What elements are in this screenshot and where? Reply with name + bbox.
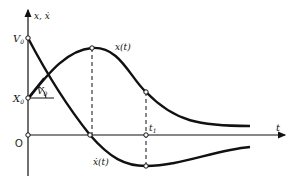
origin-label: O xyxy=(15,138,23,149)
x-curve-label: x(t) xyxy=(115,42,131,52)
x0-point xyxy=(26,96,30,100)
v0-label: V0 xyxy=(13,33,24,45)
angle-label: V0 xyxy=(37,86,48,97)
origin-point xyxy=(26,133,30,137)
t1-xdot-point xyxy=(144,164,148,168)
xdot-curve xyxy=(28,38,250,166)
t1-label: t1 xyxy=(149,123,156,134)
y-axis-label: x, ẋ xyxy=(34,11,50,21)
t1-axis-point xyxy=(144,133,148,137)
peak-point xyxy=(90,46,94,50)
x-curve xyxy=(28,48,250,126)
motion-diagram: x, ẋ t O V0 X0 V0 t1 x(t) ẋ(t) xyxy=(0,0,294,178)
v0-point xyxy=(26,36,30,40)
xdot-curve-label: ẋ(t) xyxy=(93,157,109,167)
t1-x-point xyxy=(144,90,148,94)
x0-label: X0 xyxy=(12,93,24,105)
zero-cross-point xyxy=(88,133,92,137)
t-axis-label: t xyxy=(276,122,281,133)
